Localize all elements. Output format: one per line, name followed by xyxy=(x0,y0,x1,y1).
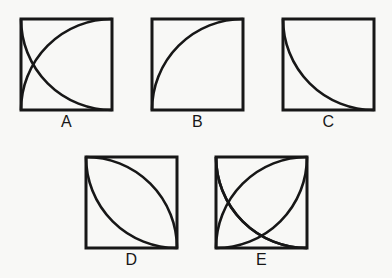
figure-drawing-c xyxy=(279,15,378,114)
figure-panel-e xyxy=(212,153,311,252)
figure-panel-b xyxy=(148,15,247,114)
figure-drawing-e xyxy=(212,153,311,252)
figure-label-a: A xyxy=(21,114,112,130)
figure-panel-c xyxy=(279,15,378,114)
figure-panel-a xyxy=(17,15,116,114)
figure-drawing-b xyxy=(148,15,247,114)
figure-drawing-a xyxy=(17,15,116,114)
figure-label-b: B xyxy=(152,114,243,130)
figure-label-d: D xyxy=(86,252,177,268)
arc-from-top-left-center xyxy=(152,19,243,110)
figure-drawing-d xyxy=(82,153,181,252)
figure-label-e: E xyxy=(216,252,307,268)
figure-label-c: C xyxy=(283,114,374,130)
arc-from-top-right-center xyxy=(283,19,374,110)
figure-sheet: ABCDE xyxy=(0,0,392,278)
figure-panel-d xyxy=(82,153,181,252)
